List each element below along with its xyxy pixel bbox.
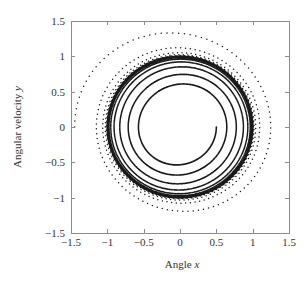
x-tick-label: 1	[250, 236, 256, 248]
x-tick-label: 1.5	[282, 236, 296, 248]
x-tick-label: −0.5	[134, 236, 154, 248]
x-axis-label-var: x	[193, 258, 199, 270]
x-tick-label: −1	[101, 236, 113, 248]
plot-frame	[72, 22, 290, 234]
y-tick-label: −1.5	[45, 227, 65, 239]
y-tick-labels: −1.5−1−0.500.511.5	[45, 15, 65, 239]
y-axis-label-text: Angular velocity	[11, 91, 23, 168]
phase-portrait-chart: −1.5−1−0.500.511.5 −1.5−1−0.500.511.5 An…	[0, 0, 307, 287]
y-tick-label: −1	[53, 192, 65, 204]
x-axis-label: Angle x	[165, 258, 200, 270]
y-tick-label: −0.5	[45, 156, 65, 168]
y-tick-label: 1.5	[51, 15, 65, 27]
axis-ticks	[71, 21, 289, 233]
x-tick-label: 0.5	[209, 236, 223, 248]
y-axis-label: Angular velocity y	[11, 86, 23, 168]
y-tick-label: 1	[60, 50, 66, 62]
y-axis-label-var: y	[11, 86, 23, 92]
x-tick-labels: −1.5−1−0.500.511.5	[61, 236, 296, 248]
y-tick-label: 0	[60, 121, 66, 133]
y-tick-label: 0.5	[51, 86, 65, 98]
x-axis-label-text: Angle	[165, 258, 195, 270]
x-tick-label: 0	[177, 236, 183, 248]
